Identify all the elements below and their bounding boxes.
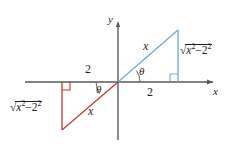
upper-right-triangle — [118, 30, 178, 82]
adjacent-label-upper: 2 — [85, 63, 91, 75]
figure-canvas — [0, 0, 231, 152]
x-axis-label: x — [213, 86, 218, 97]
radical-bar-lower: x2−22 — [15, 101, 42, 114]
angle-label-upper: θ — [139, 66, 144, 77]
x-axis-arrowhead — [207, 80, 213, 85]
hypotenuse-label-upper: x — [143, 40, 148, 52]
lower-right-angle-marker — [62, 82, 70, 90]
y-axis-arrowhead — [116, 21, 120, 27]
angle-label-lower: θ — [96, 84, 101, 95]
opposite-radical-label-lower: √x2−22 — [10, 101, 42, 114]
radicand-term2-exponent-upper: 2 — [208, 42, 212, 51]
y-axis-label: y — [108, 14, 113, 25]
opposite-radical-label-upper: √x2−22 — [180, 44, 212, 57]
radicand-term2-exponent-lower: 2 — [38, 99, 42, 108]
upper-right-angle-marker — [170, 74, 178, 82]
math-figure: x y 2 2 x x θ θ √x2−22 √x2−22 — [0, 0, 231, 152]
upper-hypotenuse — [118, 30, 178, 82]
hypotenuse-label-lower: x — [88, 105, 93, 117]
radical-bar-upper: x2−22 — [185, 44, 212, 57]
adjacent-label-lower: 2 — [147, 86, 153, 98]
